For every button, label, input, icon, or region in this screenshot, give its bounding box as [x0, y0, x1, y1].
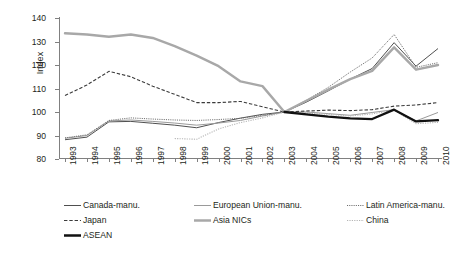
legend-swatch-dashed — [64, 217, 81, 224]
legend-swatch-solid-thin-gray — [194, 202, 211, 209]
x-tick-label: 2010 — [442, 146, 450, 165]
series-line — [65, 71, 438, 112]
legend-label: ASEAN — [83, 231, 112, 240]
y-tick-label: 120 — [22, 61, 46, 69]
y-tick-label: 110 — [22, 85, 46, 93]
legend-label: Canada-manu. — [83, 201, 140, 210]
legend-swatch-solid-thick-black — [64, 232, 81, 239]
legend-item[interactable]: European Union-manu. — [194, 201, 302, 210]
legend-swatch-dotted-light — [347, 217, 364, 224]
plot-area: 8090100110120130140 19931994199519961997… — [59, 17, 442, 159]
legend-label: Asia NICs — [213, 216, 251, 225]
legend-label: Latin America-manu. — [366, 201, 445, 210]
series-canvas — [59, 17, 442, 159]
legend-swatch-solid-thick-gray — [194, 217, 211, 224]
legend-item[interactable]: ASEAN — [64, 231, 112, 240]
y-tick-label: 90 — [22, 132, 46, 140]
chart-legend: Canada-manu.European Union-manu.Latin Am… — [64, 201, 444, 249]
legend-swatch-dotted-fine — [347, 202, 364, 209]
legend-swatch-solid-thin-dark — [64, 202, 81, 209]
series-line — [65, 43, 438, 140]
legend-item[interactable]: Japan — [64, 216, 106, 225]
legend-item[interactable]: Canada-manu. — [64, 201, 140, 210]
series-line — [65, 33, 438, 112]
legend-label: European Union-manu. — [213, 201, 302, 210]
legend-item[interactable]: Asia NICs — [194, 216, 251, 225]
legend-label: Japan — [83, 216, 106, 225]
series-line — [65, 34, 438, 137]
y-tick-label: 140 — [22, 14, 46, 22]
y-tick-label: 100 — [22, 108, 46, 116]
y-tick-label: 130 — [22, 38, 46, 46]
legend-label: China — [366, 216, 388, 225]
legend-item[interactable]: Latin America-manu. — [347, 201, 445, 210]
y-tick-label: 80 — [22, 155, 46, 163]
legend-item[interactable]: China — [347, 216, 388, 225]
y-tick — [55, 159, 59, 160]
chart-figure: Index 8090100110120130140 19931994199519… — [0, 0, 451, 253]
